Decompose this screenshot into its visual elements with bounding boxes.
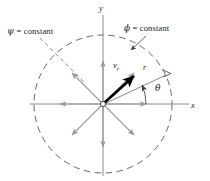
phi-symbol: ϕ bbox=[124, 23, 130, 33]
radial-arrow-315deg bbox=[103, 104, 134, 135]
velocity-label: vr bbox=[113, 61, 119, 72]
radial-arrow-135deg bbox=[72, 73, 103, 104]
x-axis-label: x bbox=[191, 101, 195, 110]
phi-constant-text: = constant bbox=[133, 23, 170, 33]
radial-arrow-225deg bbox=[72, 104, 103, 135]
psi-constant-label: ψ = constant bbox=[7, 27, 53, 36]
origin-marker bbox=[100, 101, 105, 106]
figure-canvas: ψ = constant ϕ = constant x y r θ vr bbox=[0, 0, 210, 181]
radius-label: r bbox=[143, 64, 146, 72]
phi-constant-label: ϕ = constant bbox=[124, 24, 169, 33]
psi-leader-line bbox=[40, 38, 86, 84]
psi-constant-text: = constant bbox=[17, 26, 54, 36]
velocity-vector-vr bbox=[103, 76, 134, 104]
theta-label: θ bbox=[155, 84, 160, 93]
psi-symbol: ψ bbox=[7, 26, 14, 36]
theta-arc bbox=[142, 85, 146, 104]
velocity-subscript: r bbox=[117, 66, 119, 72]
y-axis-label: y bbox=[99, 4, 103, 13]
